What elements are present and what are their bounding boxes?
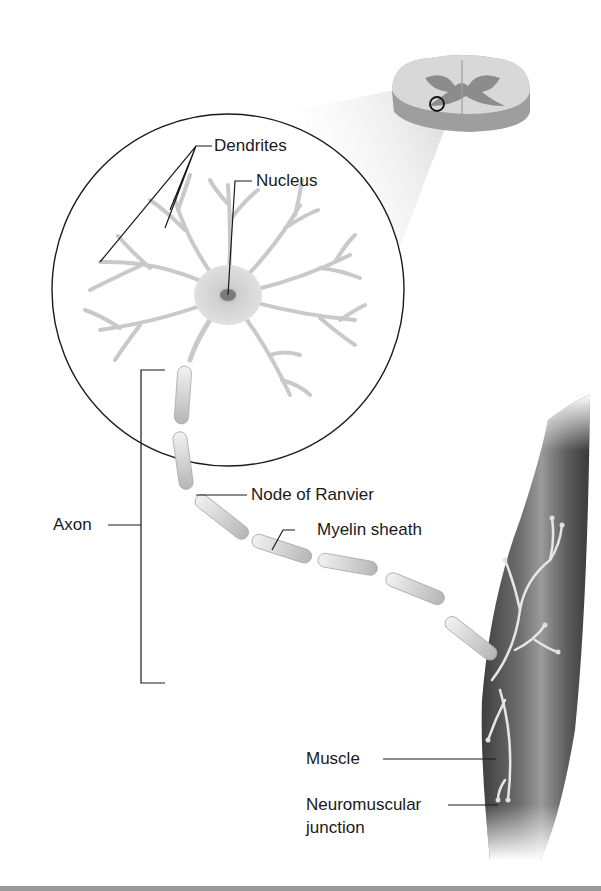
label-axon: Axon <box>53 515 92 535</box>
label-dendrites: Dendrites <box>214 136 287 156</box>
label-neuromuscular-junction-line2: junction <box>306 818 365 838</box>
label-node-of-ranvier: Node of Ranvier <box>251 485 374 505</box>
label-myelin-sheath: Myelin sheath <box>317 520 422 540</box>
label-neuromuscular-junction: Neuromuscular <box>306 795 421 815</box>
spinal-cord-cross-section <box>392 55 530 132</box>
muscle <box>482 395 590 860</box>
label-muscle: Muscle <box>306 749 360 769</box>
label-nucleus: Nucleus <box>256 171 317 191</box>
neuron-diagram: Dendrites Nucleus Axon Node of Ranvier M… <box>0 0 601 891</box>
bottom-strip <box>0 886 601 891</box>
